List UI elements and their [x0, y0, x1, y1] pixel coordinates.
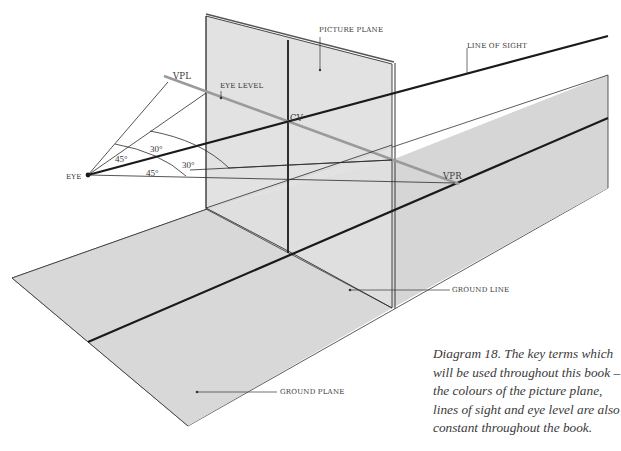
- label-picture-plane: PICTURE PLANE: [319, 26, 383, 34]
- label-line-of-sight: LINE OF SIGHT: [467, 42, 527, 50]
- label-eye: EYE: [66, 173, 81, 181]
- ground-line-leader-dot: [349, 289, 352, 292]
- label-ground-plane: GROUND PLANE: [280, 388, 345, 396]
- label-eye-level: EYE LEVEL: [220, 82, 264, 90]
- caption-line-2: will be used throughout this book –: [433, 364, 621, 383]
- ray-to-vpl: [88, 82, 168, 175]
- figure-caption: Diagram 18. The key terms which will be …: [433, 345, 621, 438]
- label-vpr: VPR: [442, 171, 462, 181]
- label-cv: CV: [290, 113, 304, 123]
- angle-label-left-inner: 30°: [150, 144, 163, 154]
- caption-line-5: constant throughout the book.: [433, 419, 621, 438]
- ground-plane-leader-dot: [196, 391, 199, 394]
- picture-plane-leader-dot: [319, 69, 321, 71]
- angle-label-right-outer: 45°: [146, 168, 159, 178]
- caption-line-3: the colours of the picture plane,: [433, 382, 621, 401]
- eye-level-leader-dot: [220, 97, 223, 100]
- caption-line-1: Diagram 18. The key terms which: [433, 345, 621, 364]
- angle-label-left-outer: 45°: [115, 154, 128, 164]
- label-vpl: VPL: [172, 71, 191, 81]
- caption-line-4: lines of sight and eye level are also: [433, 401, 621, 420]
- angle-label-right-inner: 30°: [182, 160, 195, 170]
- right-plane: [392, 75, 608, 308]
- eye-point: [86, 173, 91, 178]
- label-ground-line: GROUND LINE: [452, 286, 509, 294]
